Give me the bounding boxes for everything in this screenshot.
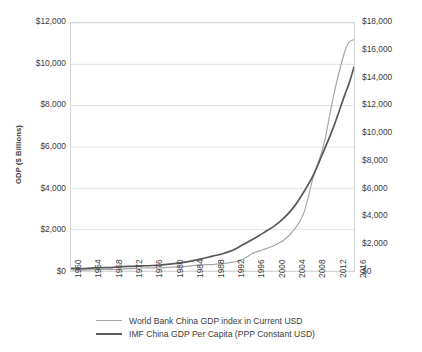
- y-axis-left-tick-label: $0: [0, 267, 66, 275]
- y-axis-left-tick-label: $12,000: [0, 17, 66, 25]
- x-axis-tick-label: 1980: [176, 259, 184, 278]
- y-axis-right-tick-label: $4,000: [362, 211, 388, 219]
- x-axis-tick-label: 1988: [217, 259, 225, 278]
- series-line: [71, 67, 354, 269]
- y-axis-right-tick-label: $8,000: [362, 156, 388, 164]
- plot-lines: [71, 23, 354, 271]
- legend-item-label: World Bank China GDP index in Current US…: [129, 316, 303, 326]
- x-axis-tick-label: 1996: [257, 259, 265, 278]
- y-axis-right-ticks: $0$2,000$4,000$6,000$8,000$10,000$12,000…: [356, 0, 402, 352]
- y-axis-right-tick-label: $12,000: [362, 100, 392, 108]
- x-axis-tick-label: 1968: [115, 259, 123, 278]
- y-axis-left-tick-label: $4,000: [0, 184, 66, 192]
- y-axis-right-tick-label: $16,000: [362, 45, 392, 53]
- y-axis-left-tick-label: $10,000: [0, 59, 66, 67]
- x-axis-tick-label: 2008: [318, 259, 326, 278]
- x-axis-tick-label: 2000: [278, 259, 286, 278]
- plot-area: [70, 22, 355, 272]
- legend-item-label: IMF China GDP Per Capita (PPP Constant U…: [129, 329, 315, 339]
- y-axis-right-tick-label: $10,000: [362, 128, 392, 136]
- x-axis-tick-label: 1972: [135, 259, 143, 278]
- y-axis-right-tick-label: $6,000: [362, 184, 388, 192]
- x-axis-tick-label: 2016: [359, 259, 367, 278]
- x-axis-tick-label: 1984: [196, 259, 204, 278]
- x-axis-tick-label: 1976: [155, 259, 163, 278]
- legend-line-swatch: [96, 320, 122, 321]
- y-axis-right-tick-label: $2,000: [362, 239, 388, 247]
- y-axis-left-tick-label: $2,000: [0, 225, 66, 233]
- series-line: [71, 40, 354, 270]
- y-axis-left-tick-label: $8,000: [0, 100, 66, 108]
- x-axis-tick-label: 1964: [94, 259, 102, 278]
- legend-item: World Bank China GDP index in Current US…: [96, 314, 396, 327]
- x-axis-tick-label: 2004: [298, 259, 306, 278]
- x-axis-tick-label: 1992: [237, 259, 245, 278]
- gdp-chart: GDP ($ Billions) $ GDP Per Capita (PPP C…: [0, 0, 422, 352]
- chart-legend: World Bank China GDP index in Current US…: [96, 314, 396, 340]
- y-axis-right-tick-label: $18,000: [362, 17, 392, 25]
- legend-item: IMF China GDP Per Capita (PPP Constant U…: [96, 327, 396, 340]
- legend-line-swatch: [96, 333, 122, 335]
- y-axis-right-tick-label: $14,000: [362, 73, 392, 81]
- x-axis-tick-label: 2012: [339, 259, 347, 278]
- x-axis-tick-label: 1960: [74, 259, 82, 278]
- y-axis-left-tick-label: $6,000: [0, 142, 66, 150]
